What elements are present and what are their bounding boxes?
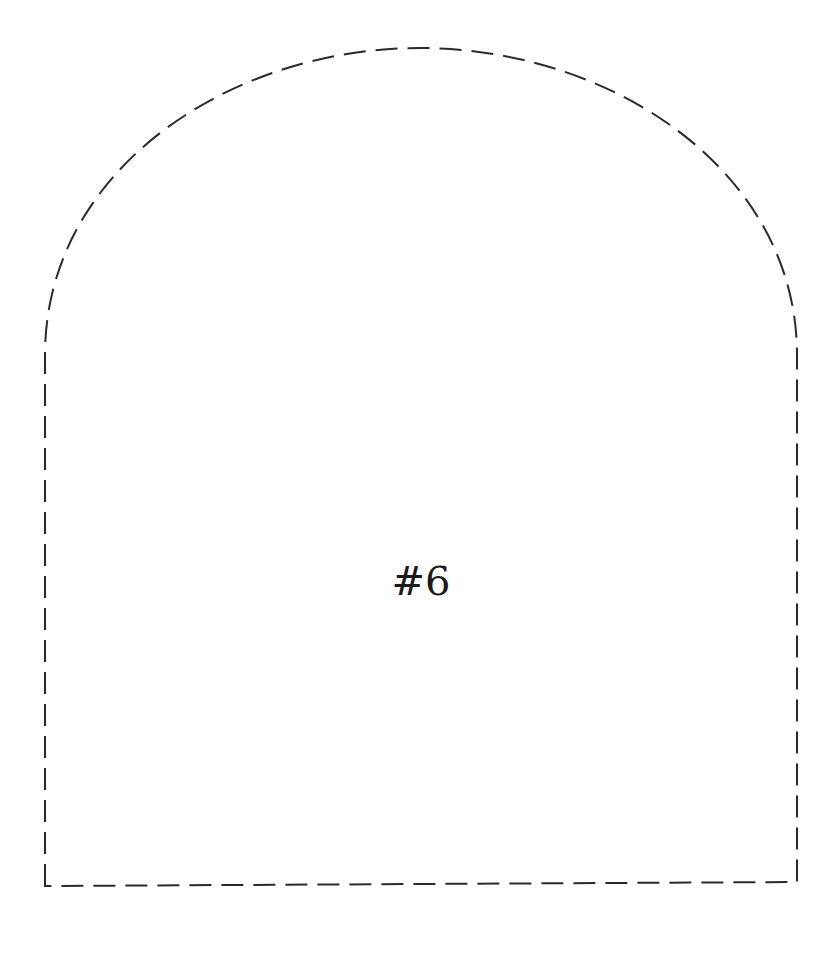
- arch-shape-outline: [0, 0, 836, 961]
- shape-number-label: #6: [0, 556, 836, 606]
- arch-outline-path: [45, 48, 797, 886]
